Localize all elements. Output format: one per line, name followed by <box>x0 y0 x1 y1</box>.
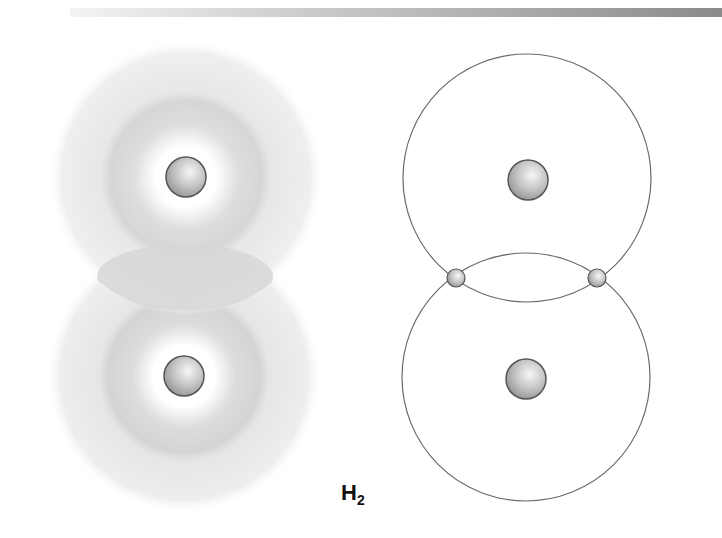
bohr-orbit-model <box>402 54 651 501</box>
nucleus-bottom <box>164 356 204 396</box>
shared-electron-left <box>447 269 465 287</box>
formula-subscript: 2 <box>357 492 365 508</box>
formula-element: H <box>341 480 357 505</box>
electron-cloud-model <box>46 39 324 514</box>
nucleus-bottom <box>506 359 546 399</box>
h2-molecule-diagram <box>0 0 722 538</box>
molecule-formula-label: H2 <box>341 482 365 507</box>
nucleus-top <box>508 160 548 200</box>
shared-electron-right <box>588 269 606 287</box>
nucleus-top <box>166 157 206 197</box>
